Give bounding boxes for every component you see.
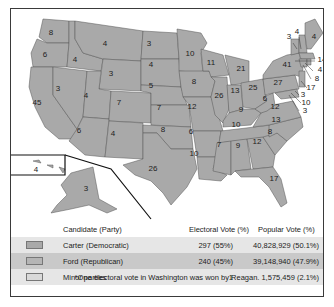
svg-text:10: 10 [190, 149, 199, 158]
state-or [31, 39, 69, 67]
state-sd [141, 59, 181, 87]
legend-row-ford: Ford (Republican) 240 (45%) 39,148,940 (… [11, 253, 323, 269]
svg-text:3: 3 [303, 106, 308, 115]
candidate-name: Carter (Democratic) [63, 241, 129, 250]
state-ri [307, 59, 311, 65]
svg-text:26: 26 [215, 91, 224, 100]
svg-text:4: 4 [73, 55, 78, 64]
svg-text:4: 4 [149, 60, 154, 69]
svg-text:4: 4 [318, 65, 323, 74]
svg-text:7: 7 [157, 103, 162, 112]
us-map: 8 6 45 4 3 4 3 4 6 7 4 3 4 5 7 8 26 10 8… [11, 9, 323, 221]
svg-text:8: 8 [161, 125, 166, 134]
legend-header: Candidate (Party) Electoral Vote (%) Pop… [11, 221, 323, 237]
svg-text:5: 5 [149, 81, 154, 90]
svg-text:27: 27 [274, 78, 283, 87]
svg-text:10: 10 [186, 49, 195, 58]
popular-vote: 40,828,929 (50.1%) [253, 241, 319, 250]
electoral-vote: 297 (55%) [198, 241, 233, 250]
svg-text:17: 17 [270, 174, 279, 183]
legend-row-carter: Carter (Democratic) 297 (55%) 40,828,929… [11, 237, 323, 253]
election-map-figure: 8 6 45 4 3 4 3 4 6 7 4 3 4 5 7 8 26 10 8… [10, 8, 324, 297]
popular-vote: 39,148,940 (47.9%) [253, 257, 319, 266]
svg-text:3: 3 [287, 32, 292, 41]
electoral-vote: 240 (45%) [198, 257, 233, 266]
svg-text:4: 4 [34, 165, 39, 174]
svg-text:4: 4 [312, 32, 317, 41]
header-candidate: Candidate (Party) [63, 225, 122, 234]
svg-text:8: 8 [268, 127, 273, 136]
svg-text:8: 8 [315, 74, 320, 83]
swatch-ford [26, 257, 43, 265]
svg-text:41: 41 [283, 60, 292, 69]
footnote: *One electoral vote in Washington was wo… [11, 273, 323, 282]
state-ma [299, 53, 315, 59]
svg-text:12: 12 [271, 102, 280, 111]
svg-text:3: 3 [147, 39, 152, 48]
svg-text:3: 3 [56, 84, 61, 93]
state-wa [39, 19, 69, 43]
svg-text:6: 6 [189, 127, 194, 136]
svg-text:21: 21 [237, 64, 246, 73]
svg-text:10: 10 [232, 120, 241, 129]
svg-text:45: 45 [33, 98, 42, 107]
svg-text:7: 7 [217, 140, 222, 149]
state-co [109, 91, 151, 123]
svg-text:8: 8 [49, 28, 54, 37]
svg-text:14: 14 [318, 55, 323, 64]
svg-text:12: 12 [253, 137, 262, 146]
svg-text:9: 9 [239, 105, 244, 114]
svg-text:6: 6 [43, 50, 48, 59]
svg-text:26: 26 [149, 164, 158, 173]
svg-text:17: 17 [307, 83, 316, 92]
state-wy [99, 59, 141, 91]
svg-text:13: 13 [231, 86, 240, 95]
svg-text:11: 11 [207, 58, 216, 67]
svg-text:6: 6 [77, 126, 82, 135]
state-vt [291, 39, 299, 55]
header-popular: Popular Vote (%) [258, 225, 315, 234]
swatch-carter [26, 241, 43, 249]
header-electoral: Electoral Vote (%) [189, 225, 249, 234]
svg-text:3: 3 [84, 184, 89, 193]
state-fl [235, 167, 287, 207]
svg-text:4: 4 [103, 39, 108, 48]
svg-text:4: 4 [111, 129, 116, 138]
svg-text:4: 4 [84, 91, 89, 100]
svg-text:7: 7 [117, 98, 122, 107]
svg-text:4: 4 [295, 27, 300, 36]
svg-text:3: 3 [109, 69, 114, 78]
svg-text:6: 6 [263, 94, 268, 103]
svg-text:9: 9 [236, 141, 241, 150]
state-nm [105, 121, 143, 159]
svg-text:13: 13 [272, 115, 281, 124]
svg-text:25: 25 [249, 83, 258, 92]
svg-text:12: 12 [188, 102, 197, 111]
state-ia [179, 71, 215, 97]
svg-text:8: 8 [192, 77, 197, 86]
candidate-name: Ford (Republican) [63, 257, 123, 266]
